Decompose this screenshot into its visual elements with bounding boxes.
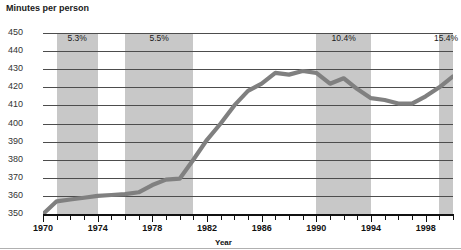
x-axis-tick [248,216,249,220]
x-axis-tick [439,216,440,220]
x-axis-tick [180,216,181,220]
band-percentage-label: 10.4% [314,33,374,43]
y-axis-tick-label: 410 [8,99,38,109]
x-axis-tick-label: 1970 [33,223,53,233]
x-axis-tick [125,216,126,220]
x-axis-tick [193,216,194,220]
x-axis-tick-label: 1974 [88,223,108,233]
x-axis-tick [330,216,331,220]
y-axis-tick-label: 430 [8,63,38,73]
y-axis-tick-label: 400 [8,118,38,128]
x-axis-tick [166,216,167,220]
x-axis-tick [385,216,386,220]
x-axis-tick [275,216,276,220]
y-axis-tick-label: 440 [8,45,38,55]
x-axis-tick [398,216,399,220]
x-axis-tick [57,216,58,220]
x-axis-tick [207,216,208,222]
y-axis-tick-label: 450 [8,27,38,37]
x-axis-tick [426,216,427,222]
x-axis-tick [303,216,304,220]
x-axis-title: Year [215,238,232,247]
x-axis-tick-label: 1998 [416,223,436,233]
x-axis-tick-label: 1994 [361,223,381,233]
x-axis-tick [139,216,140,220]
y-axis-tick-label: 370 [8,172,38,182]
x-axis-tick [70,216,71,220]
x-axis-tick [371,216,372,222]
x-axis-tick [234,216,235,220]
y-axis-tick-label: 350 [8,208,38,218]
x-axis-tick-label: 1982 [197,223,217,233]
x-axis-tick [357,216,358,220]
series-line [43,33,453,214]
x-axis-tick [412,216,413,220]
x-axis-tick-label: 1978 [142,223,162,233]
band-percentage-label: 5.3% [47,33,107,43]
y-axis-tick-label: 390 [8,136,38,146]
plot-area [43,33,453,214]
x-axis-tick-label: 1986 [252,223,272,233]
bottom-rule [0,248,461,249]
x-axis-tick [111,216,112,220]
chart-figure: Minutes per person 450440430420410400390… [0,0,461,250]
x-axis-tick [221,216,222,220]
y-axis-title: Minutes per person [6,3,89,13]
band-percentage-label: 5.5% [129,33,189,43]
x-axis-tick [152,216,153,222]
y-axis-tick-label: 420 [8,81,38,91]
x-axis-tick [453,216,454,220]
x-axis-tick [98,216,99,222]
x-axis-tick [43,216,44,222]
y-axis-tick-label: 360 [8,190,38,200]
x-axis-tick [316,216,317,222]
y-axis-tick-label: 380 [8,154,38,164]
x-axis-tick [84,216,85,220]
x-axis-tick [344,216,345,220]
x-axis-tick-label: 1990 [306,223,326,233]
x-axis-tick [289,216,290,220]
band-percentage-label: 15.4% [402,33,458,43]
x-axis-tick [262,216,263,222]
